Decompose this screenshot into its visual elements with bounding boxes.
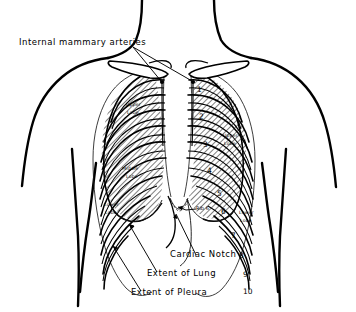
label-right-upper-lobe-line1: Upper [223,134,238,139]
label-cardiac-notch: Cardiac Notch [170,250,236,259]
rib-number-9: 9 [243,271,248,279]
label-left-middle-lobe-line1: Middle [122,167,138,172]
rib-number-10: 10 [243,288,253,296]
label-right-lower-lobe-line1: Lower [239,211,254,216]
label-extent-of-lung: Extent of Lung [147,269,216,278]
label-extent-of-pleura: Extent of Pleura [131,288,207,297]
rib-number-7: 7 [231,232,236,240]
label-internal-mammary-arteries: Internal mammary arteries [19,38,146,47]
label-right-upper-lobe-line2: Lobe [224,142,236,147]
rib-number-8: 8 [239,252,244,260]
label-right-lower-lobe-line2: Lobe [240,219,252,224]
rib-number-6: 6 [221,208,226,216]
rib-number-1: 1 [197,86,202,94]
label-left-upper-lobe-line2: Lobe [127,111,139,116]
thorax-diagram: Internal mammary arteries Cardiac Notch … [0,0,356,312]
label-left-upper-lobe-line1: Upper [126,103,141,108]
rib-number-5: 5 [217,190,222,198]
rib-number-3: 3 [203,141,208,149]
label-left-middle-lobe-line2: Lobe [126,175,138,180]
rib-number-4: 4 [207,167,212,175]
rib-number-2: 2 [199,113,204,121]
label-left-lower-lobe-line1: Lower [104,203,119,208]
label-rib-6: Rib 6 [196,206,209,211]
label-left-lower-lobe-line2: Lobe [105,211,117,216]
